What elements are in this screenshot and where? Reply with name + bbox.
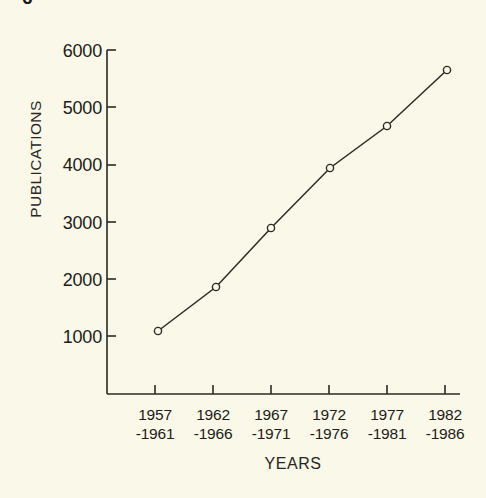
x-tick-label-line2: -1976 — [297, 424, 361, 443]
x-axis-title-text: YEARS — [264, 455, 321, 472]
data-point-marker — [443, 66, 450, 73]
x-tick-label-line1: 1982 — [428, 406, 462, 423]
x-tick-label-line2: -1971 — [239, 424, 303, 443]
x-tick-label: 1957 -1961 — [123, 405, 187, 443]
x-tick-label-line1: 1977 — [370, 406, 404, 423]
data-point-marker — [154, 327, 161, 334]
x-tick-label-line2: -1961 — [123, 424, 187, 443]
x-tick-label-line2: -1966 — [181, 424, 245, 443]
x-tick-label: 1972 -1976 — [297, 405, 361, 443]
x-tick-label-line2: -1981 — [355, 424, 419, 443]
x-tick-label-line2: -1986 — [413, 424, 477, 443]
data-point-marker — [383, 122, 390, 129]
x-tick-label-line1: 1962 — [196, 406, 230, 423]
x-tick-label-line1: 1957 — [138, 406, 172, 423]
data-point-marker — [212, 283, 219, 290]
data-point-marker — [326, 164, 333, 171]
x-tick-label: 1962 -1966 — [181, 405, 245, 443]
figure-panel: 6 PUBLICATIONS 6000 5000 4000 3000 2000 … — [0, 0, 486, 498]
x-tick-label: 1982 -1986 — [413, 405, 477, 443]
data-point-marker — [267, 224, 274, 231]
x-tick-label: 1977 -1981 — [355, 405, 419, 443]
x-tick-label-line1: 1967 — [254, 406, 288, 423]
x-axis-title: YEARS — [0, 455, 486, 473]
x-axis — [107, 385, 460, 394]
data-series-line — [158, 70, 447, 331]
x-tick-label: 1967 -1971 — [239, 405, 303, 443]
data-point-markers — [154, 66, 450, 334]
x-tick-label-line1: 1972 — [312, 406, 346, 423]
y-axis — [107, 50, 116, 394]
